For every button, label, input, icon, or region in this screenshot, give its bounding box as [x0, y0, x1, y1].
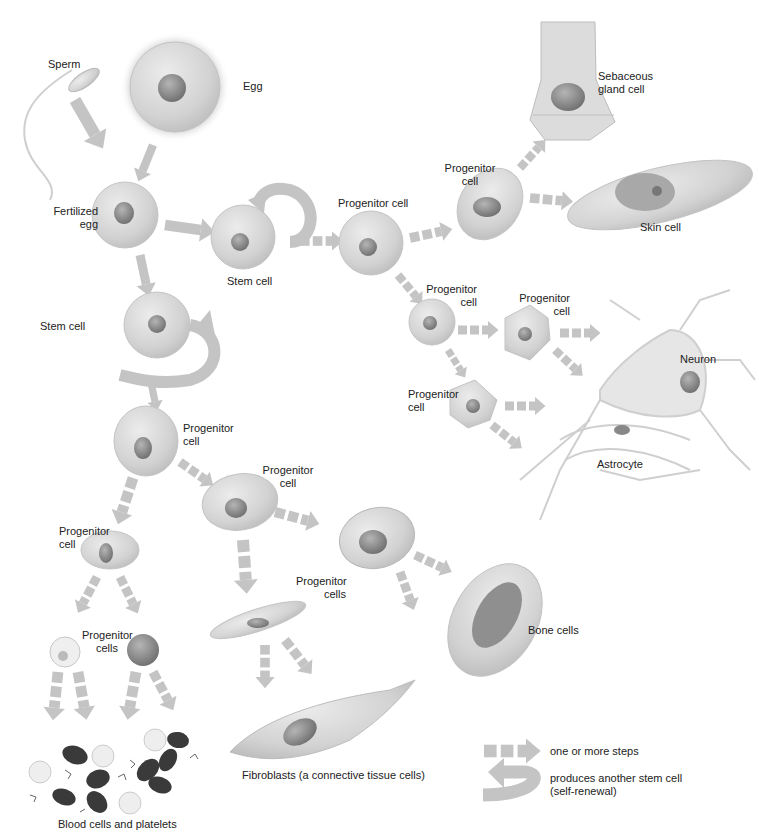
progenitor-cell-white-blood: [50, 637, 80, 667]
label-progenitor-cell-connective: Progenitor cell: [260, 464, 316, 490]
label-progenitor-cells-blood: Progenitor cells: [82, 629, 132, 655]
label-fertilized-egg: Fertilized egg: [50, 205, 98, 231]
stem-cell-top: [211, 189, 311, 269]
progenitor-cell-mid: [114, 406, 178, 476]
label-skin-cell: Skin cell: [640, 221, 681, 234]
progenitor-cell-fibroblast: [207, 594, 309, 646]
legend-one-or-more-steps: one or more steps: [550, 745, 639, 758]
label-egg: Egg: [243, 80, 263, 93]
progenitor-cell-bone: [333, 499, 422, 577]
label-progenitor-neural-2: Progenitor cell: [518, 292, 570, 318]
label-progenitor-cell-skin: Progenitor cell: [440, 162, 500, 188]
label-sperm: Sperm: [48, 58, 80, 71]
label-progenitor-cell-mid: Progenitor cell: [183, 422, 234, 448]
label-progenitor-cells-bone: Progenitor cells: [296, 575, 346, 601]
fibroblast-cell: [230, 680, 415, 759]
label-fibroblasts: Fibroblasts (a connective tissue cells): [242, 769, 425, 782]
fertilized-egg-cell: [92, 182, 158, 248]
label-neuron: Neuron: [680, 353, 716, 366]
progenitor-cell-top: [339, 211, 403, 275]
label-stem-cell-top: Stem cell: [227, 275, 272, 288]
label-progenitor-neural-1: Progenitor cell: [425, 283, 477, 309]
legend-dashed-arrow-icon: [484, 738, 541, 763]
neuron-and-astrocyte: [520, 290, 755, 520]
label-progenitor-cell-blood: Progenitor cell: [59, 525, 110, 551]
label-blood-cells-platelets: Blood cells and platelets: [58, 818, 177, 831]
label-progenitor-cell-top: Progenitor cell: [338, 197, 408, 210]
legend-self-renewal-arrow-icon: [483, 758, 534, 795]
stem-cell-left: [120, 292, 215, 382]
stem-cell-differentiation-diagram: Sperm Egg Fertilized egg Stem cell Proge…: [0, 0, 759, 839]
label-progenitor-neural-3: Progenitor cell: [408, 388, 459, 414]
label-bone-cells: Bone cells: [528, 624, 579, 637]
blood-cells-cluster: [29, 729, 198, 817]
label-astrocyte: Astrocyte: [597, 458, 643, 471]
egg-illustration: [120, 32, 230, 142]
legend-self-renewal: produces another stem cell (self-renewal…: [550, 772, 682, 798]
label-sebaceous-gland-cell: Sebaceous gland cell: [598, 70, 653, 96]
diagram-artwork: [0, 0, 759, 839]
label-stem-cell-left: Stem cell: [40, 320, 85, 333]
